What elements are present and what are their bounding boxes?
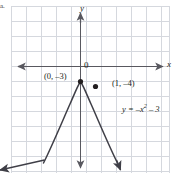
equation-label: y = –x2 – 3 bbox=[122, 103, 160, 113]
point-label-one: (1, –4) bbox=[112, 79, 135, 88]
x-axis-label: x bbox=[167, 60, 171, 69]
point-label-vertex: (0, –3) bbox=[44, 72, 67, 81]
equation-lead: y = –x bbox=[122, 104, 144, 114]
figure-container: a. bbox=[0, 0, 177, 182]
equation-tail: – 3 bbox=[147, 104, 160, 114]
parabola-curve bbox=[0, 82, 121, 171]
graph-vectors bbox=[0, 0, 177, 182]
data-point-vertex bbox=[78, 79, 83, 84]
data-point-one bbox=[93, 84, 98, 89]
origin-label: 0 bbox=[84, 61, 89, 70]
y-axis-label: y bbox=[80, 4, 84, 13]
